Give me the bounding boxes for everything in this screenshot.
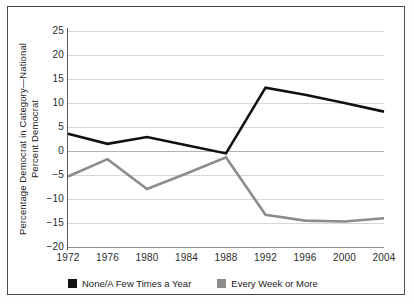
legend-item-none-a-few-times-a-year[interactable]: None/A Few Times a Year: [68, 278, 191, 289]
legend-swatch-icon: [217, 279, 226, 288]
x-tick-label-1996: 1996: [283, 252, 327, 264]
legend-swatch-icon: [68, 279, 77, 288]
x-tick-label-2000: 2000: [323, 252, 367, 264]
x-tick-label-1984: 1984: [165, 252, 209, 264]
legend-label: Every Week or More: [231, 278, 317, 289]
x-tick-label-1988: 1988: [204, 252, 248, 264]
chart-figure: Percentage Democrat in Category—National…: [0, 0, 414, 304]
x-tick-label-1992: 1992: [244, 252, 288, 264]
x-tick-label-1976: 1976: [86, 252, 130, 264]
x-tick-label-1980: 1980: [125, 252, 169, 264]
chart-legend: None/A Few Times a YearEvery Week or Mor…: [68, 275, 384, 291]
series-line-every-week-or-more: [68, 157, 384, 221]
x-axis-tick-labels: 197219761980198419881992199620002004: [68, 252, 384, 268]
x-tick-label-1972: 1972: [46, 252, 90, 264]
series-line-none-a-few-times-a-year: [68, 88, 384, 154]
legend-label: None/A Few Times a Year: [82, 278, 191, 289]
legend-item-every-week-or-more[interactable]: Every Week or More: [217, 278, 317, 289]
x-tick-label-2004: 2004: [362, 252, 406, 264]
